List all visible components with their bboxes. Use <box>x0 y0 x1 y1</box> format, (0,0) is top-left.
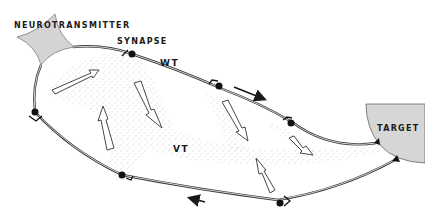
synapse-4 <box>29 109 42 122</box>
target-cell <box>366 104 425 163</box>
vt-label: VT <box>173 144 189 154</box>
neurotransmitter-label: NEUROTRANSMITTER <box>14 21 130 30</box>
volume-wiring-transmission-diagram: NEUROTRANSMITTER SYNAPSE WT VT TARGET <box>0 0 425 220</box>
return-direction-arrow <box>190 198 205 202</box>
synapse-label: SYNAPSE <box>117 37 168 46</box>
synapse-3 <box>283 117 295 127</box>
target-label: TARGET <box>377 124 419 133</box>
wt-direction-arrow <box>234 87 264 99</box>
wt-label: WT <box>160 58 179 68</box>
